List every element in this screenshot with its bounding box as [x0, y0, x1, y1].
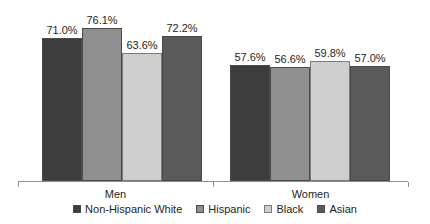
chart-legend: Non-Hispanic White Hispanic Black Asian: [0, 203, 430, 215]
bar-value-label: 71.0%: [46, 24, 77, 36]
bar-women-non-hispanic-white: 57.6%: [230, 65, 270, 181]
bar-women-hispanic: 56.6%: [270, 67, 310, 181]
bar-fill: [82, 28, 122, 181]
bar-men-hispanic: 76.1%: [82, 28, 122, 181]
bar-value-label: 57.0%: [354, 52, 385, 64]
bar-fill: [310, 61, 350, 181]
bar-women-asian: 57.0%: [350, 66, 390, 181]
legend-swatch-icon: [73, 205, 81, 213]
legend-item-black: Black: [264, 203, 303, 215]
bar-women-black: 59.8%: [310, 61, 350, 181]
bar-men-asian: 72.2%: [162, 36, 202, 181]
bar-value-label: 76.1%: [86, 14, 117, 26]
legend-swatch-icon: [264, 205, 272, 213]
legend-item-label: Asian: [329, 203, 357, 215]
axis-tick-right: [408, 182, 409, 187]
legend-item-label: Hispanic: [208, 203, 250, 215]
legend-item-non-hispanic-white: Non-Hispanic White: [73, 203, 182, 215]
bar-value-label: 57.6%: [234, 51, 265, 63]
bar-men-non-hispanic-white: 71.0%: [42, 38, 82, 181]
bar-value-label: 63.6%: [126, 39, 157, 51]
bar-fill: [122, 53, 162, 181]
bar-fill: [42, 38, 82, 181]
bar-fill: [270, 67, 310, 181]
axis-tick-left: [18, 182, 19, 187]
bar-chart: 71.0% 76.1% 63.6% 72.2% 57.6%: [0, 0, 430, 224]
bar-group-women: 57.6% 56.6% 59.8% 57.0%: [230, 0, 390, 181]
bar-fill: [230, 65, 270, 181]
bar-men-black: 63.6%: [122, 53, 162, 181]
bar-value-label: 59.8%: [314, 47, 345, 59]
legend-item-label: Non-Hispanic White: [85, 203, 182, 215]
legend-swatch-icon: [196, 205, 204, 213]
legend-item-hispanic: Hispanic: [196, 203, 250, 215]
bar-group-men: 71.0% 76.1% 63.6% 72.2%: [42, 0, 202, 181]
bar-fill: [162, 36, 202, 181]
legend-item-label: Black: [276, 203, 303, 215]
category-label-men: Men: [18, 188, 213, 201]
category-label-women: Women: [213, 188, 408, 201]
bar-value-label: 72.2%: [166, 22, 197, 34]
axis-tick-center: [213, 182, 214, 187]
plot-area: 71.0% 76.1% 63.6% 72.2% 57.6%: [0, 0, 430, 182]
bar-fill: [350, 66, 390, 181]
bar-value-label: 56.6%: [274, 53, 305, 65]
legend-swatch-icon: [317, 205, 325, 213]
legend-item-asian: Asian: [317, 203, 357, 215]
